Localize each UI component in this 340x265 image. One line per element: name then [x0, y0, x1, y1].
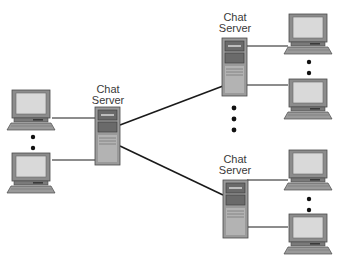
- link-left-server-to-top-right-server: [120, 86, 223, 125]
- connection-lines: [52, 46, 288, 227]
- server-label-top-right-line2: Server: [210, 23, 260, 34]
- ellipsis-between-servers: [232, 106, 237, 133]
- client-computer-top-right-top: [284, 14, 332, 54]
- client-computer-left-top: [7, 90, 55, 130]
- server-tower-left: [95, 107, 120, 165]
- ellipsis-top-right-clients: [307, 60, 311, 75]
- client-computer-bottom-right-bottom: [284, 214, 332, 254]
- link-left-server-to-bottom-right-server: [120, 146, 223, 195]
- server-label-top-right: Chat Server: [210, 12, 260, 34]
- server-label-left-line2: Server: [83, 95, 133, 106]
- server-label-left: Chat Server: [83, 84, 133, 106]
- client-computer-left-bottom: [7, 153, 55, 193]
- server-label-bottom-right: Chat Server: [210, 154, 260, 176]
- ellipsis-left-clients: [31, 135, 35, 150]
- server-tower-top-right: [222, 38, 247, 96]
- client-computer-top-right-bottom: [284, 79, 332, 119]
- ellipsis-bottom-right-clients: [307, 197, 311, 212]
- server-tower-bottom-right: [223, 180, 248, 238]
- server-label-bottom-right-line2: Server: [210, 165, 260, 176]
- client-computer-bottom-right-top: [284, 150, 332, 190]
- chat-server-network-diagram: [0, 0, 340, 265]
